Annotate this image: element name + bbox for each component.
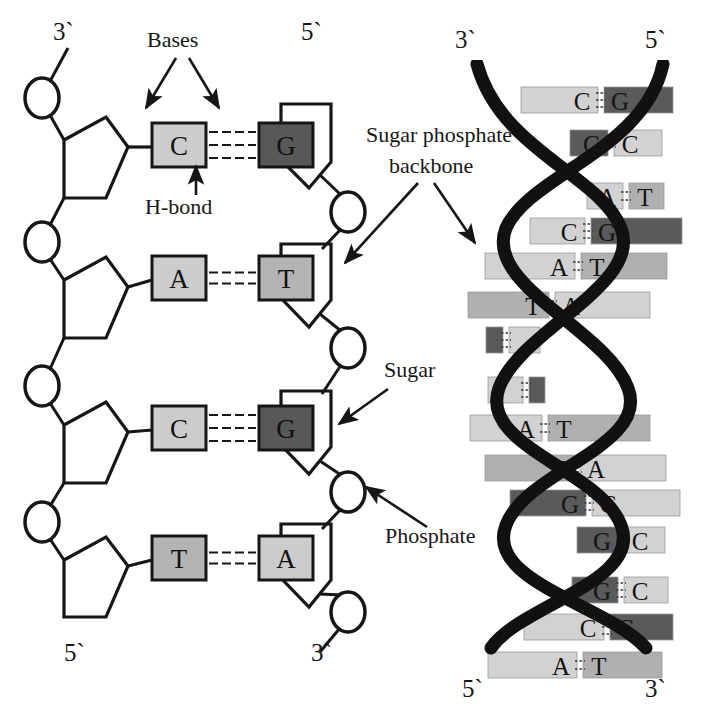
helix-base-letter-right: C <box>632 528 649 555</box>
helix-base-letter-right: G <box>611 88 629 115</box>
phosphate-circle <box>25 366 59 406</box>
helix-base-letter-left: G <box>593 528 611 555</box>
helix-base-letter-right: C <box>632 578 649 605</box>
helix-label-3prime-top-left: 3` <box>455 26 476 53</box>
label-sugar-phosphate-backbone-line1: Sugar phosphate <box>366 122 512 147</box>
helix-base-bar-right <box>529 377 545 403</box>
label-sugar-phosphate-backbone-line2: backbone <box>389 153 473 178</box>
helix-label-5prime-bottom-left: 5` <box>462 675 483 702</box>
phosphate-circle <box>25 78 59 118</box>
label-phosphate: Phosphate <box>385 523 475 548</box>
label-sugar: Sugar <box>384 357 436 382</box>
helix-base-letter-right: T <box>591 653 606 680</box>
figure-canvas: CGATCGTA 3` 5` 5` 3` Bases H-bond Sugar … <box>0 0 705 706</box>
base-letter-right: G <box>276 131 296 161</box>
helix-base-pair-rung: CG <box>530 218 682 246</box>
label-bases: Bases <box>147 27 198 52</box>
phosphate-circle <box>25 222 59 262</box>
label-3prime-bottom-right: 3` <box>311 639 332 666</box>
helix-base-letter-right: T <box>637 184 652 211</box>
helix-base-letter-right: T <box>556 416 571 443</box>
glycosidic-bond <box>128 430 152 432</box>
phosphate-circle <box>331 192 365 232</box>
base-letter-right: A <box>276 544 296 574</box>
helix-base-pair-rung: AT <box>488 652 662 680</box>
helix-base-letter-left: C <box>561 219 578 246</box>
helix-label-5prime-top-right: 5` <box>645 26 666 53</box>
dna-structure-figure: CGATCGTA 3` 5` 5` 3` Bases H-bond Sugar … <box>0 0 705 706</box>
backbone-bond <box>320 594 341 595</box>
helix-label-3prime-bottom-right: 3` <box>645 675 666 702</box>
label-3prime-top-left: 3` <box>53 18 74 45</box>
helix-base-letter-left: C <box>574 88 591 115</box>
label-h-bond: H-bond <box>145 194 212 219</box>
label-5prime-bottom-left: 5` <box>64 639 85 666</box>
base-letter-left: A <box>169 264 189 294</box>
label-5prime-top-right: 5` <box>301 18 322 45</box>
phosphate-circle <box>331 472 365 512</box>
base-letter-left: C <box>170 414 188 444</box>
helix-base-letter-left: A <box>552 653 570 680</box>
base-letter-left: T <box>171 544 188 574</box>
base-letter-right: G <box>276 414 296 444</box>
phosphate-circle <box>331 328 365 368</box>
helix-base-letter-left: A <box>550 254 568 281</box>
helix-base-bar-left <box>486 327 503 353</box>
helix-base-letter-left: G <box>561 491 579 518</box>
base-letter-left: C <box>170 131 188 161</box>
phosphate-circle <box>25 502 59 542</box>
base-letter-right: T <box>278 264 295 294</box>
phosphate-circle <box>331 592 365 632</box>
